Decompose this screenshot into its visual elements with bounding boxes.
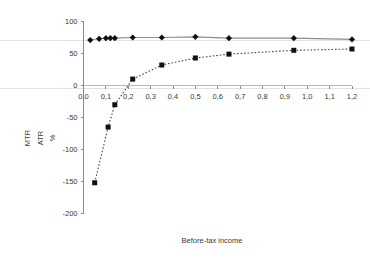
- y-axis-title-atr: ATR: [36, 130, 45, 145]
- y-tick-label: -200: [62, 209, 77, 218]
- data-point-mtr: [130, 34, 136, 40]
- y-axis-title-percent: %: [48, 134, 57, 141]
- y-tick-labels: 100500-50-100-150-200: [62, 17, 77, 218]
- x-tick-label: 0,9: [280, 92, 290, 101]
- background-rules: [0, 41, 370, 89]
- data-point-atr: [112, 102, 117, 107]
- data-point-atr: [291, 48, 296, 53]
- y-tick-label: 50: [69, 49, 77, 58]
- data-point-mtr: [192, 34, 198, 40]
- data-point-atr: [193, 55, 198, 60]
- x-tick-label: 1,2: [347, 92, 357, 101]
- data-point-mtr: [159, 34, 165, 40]
- series-line-mtr: [90, 37, 352, 40]
- data-point-atr: [350, 47, 355, 52]
- chart-plot-area: 100500-50-100-150-200 0,00,10,20,30,40,5…: [0, 0, 370, 265]
- data-point-atr: [130, 77, 135, 82]
- x-axis-title: Before-tax income: [182, 236, 243, 245]
- x-tick-label: 0,5: [190, 92, 200, 101]
- x-tick-label: 0,1: [101, 92, 111, 101]
- x-tick-label: 0,8: [257, 92, 267, 101]
- series-markers: [87, 34, 355, 186]
- x-tick-label: 0,3: [145, 92, 155, 101]
- data-point-atr: [226, 52, 231, 57]
- x-tick-label: 1,1: [324, 92, 334, 101]
- x-tick-label: 0,4: [168, 92, 178, 101]
- x-tick-label: 0,0: [78, 92, 88, 101]
- y-tick-label: -100: [62, 145, 77, 154]
- data-point-atr: [92, 180, 97, 185]
- x-tick-label: 1,0: [302, 92, 312, 101]
- series-lines: [90, 37, 352, 183]
- y-tick-label: 0: [73, 81, 77, 90]
- y-axis-title-mtr: MTR: [23, 129, 32, 146]
- data-point-mtr: [349, 36, 355, 42]
- data-point-mtr: [87, 37, 93, 43]
- y-tick-label: 100: [65, 17, 78, 26]
- series-line-atr: [95, 49, 352, 183]
- y-tick-label: -50: [67, 113, 78, 122]
- x-tick-labels: 0,00,10,20,30,40,50,60,70,80,91,01,11,2: [78, 92, 357, 101]
- data-point-atr: [106, 125, 111, 130]
- x-tick-label: 0,6: [213, 92, 223, 101]
- y-tick-label: -150: [62, 177, 77, 186]
- x-tick-label: 0,2: [123, 92, 133, 101]
- y-axis: [81, 22, 84, 214]
- chart-container: 100500-50-100-150-200 0,00,10,20,30,40,5…: [0, 0, 370, 265]
- x-tick-label: 0,7: [235, 92, 245, 101]
- data-point-atr: [159, 63, 164, 68]
